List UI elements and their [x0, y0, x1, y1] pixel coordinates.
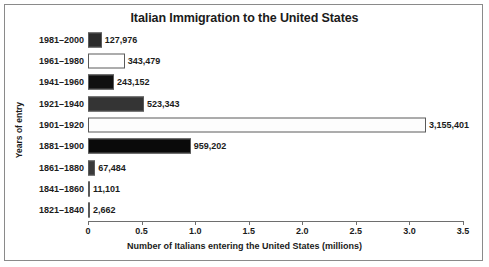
bar-value-label: 11,101	[93, 184, 120, 194]
bar-row: 1881–1900959,202	[88, 136, 463, 157]
bar	[88, 96, 144, 111]
x-tick-label: 2.0	[282, 226, 322, 236]
category-label: 1961–1980	[39, 56, 84, 66]
bar-value-label: 959,202	[194, 141, 227, 151]
x-axis-line	[88, 221, 464, 222]
category-label: 1921–1940	[39, 99, 84, 109]
x-tick	[249, 221, 250, 225]
bar-value-label: 343,479	[128, 56, 161, 66]
bar	[88, 203, 90, 218]
bar	[88, 53, 125, 68]
y-axis-label: Years of entry	[14, 80, 24, 180]
x-tick	[88, 221, 89, 225]
category-label: 1861–1880	[39, 163, 84, 173]
x-axis-label: Number of Italians entering the United S…	[5, 241, 484, 251]
bar	[88, 181, 90, 196]
bar-row: 1981–2000127,976	[88, 29, 463, 50]
x-tick	[142, 221, 143, 225]
bar-value-label: 523,343	[147, 99, 180, 109]
x-tick-label: 0	[68, 226, 108, 236]
x-tick	[302, 221, 303, 225]
bar	[88, 139, 191, 154]
bar-value-label: 3,155,401	[429, 120, 469, 130]
category-label: 1821–1840	[39, 205, 84, 215]
bar	[88, 75, 114, 90]
bar-row: 1921–1940523,343	[88, 93, 463, 114]
bar-row: 1941–1960243,152	[88, 72, 463, 93]
x-tick	[356, 221, 357, 225]
bar	[88, 117, 426, 132]
x-tick-label: 0.5	[122, 226, 162, 236]
category-label: 1901–1920	[39, 120, 84, 130]
bar	[88, 32, 102, 47]
x-tick-label: 1.0	[175, 226, 215, 236]
bar-row: 1961–1980343,479	[88, 50, 463, 71]
bar	[88, 160, 95, 175]
bar-value-label: 2,662	[93, 205, 116, 215]
chart-title: Italian Immigration to the United States	[5, 11, 484, 25]
chart-figure: Italian Immigration to the United States…	[4, 4, 483, 261]
x-tick-label: 3.0	[389, 226, 429, 236]
x-tick-label: 2.5	[336, 226, 376, 236]
bar-row: 1841–186011,101	[88, 178, 463, 199]
category-label: 1981–2000	[39, 35, 84, 45]
x-tick	[409, 221, 410, 225]
plot-area: 1981–2000127,9761961–1980343,4791941–196…	[88, 29, 463, 221]
category-label: 1841–1860	[39, 184, 84, 194]
x-tick-label: 3.5	[443, 226, 483, 236]
category-label: 1881–1900	[39, 141, 84, 151]
bar-row: 1821–18402,662	[88, 200, 463, 221]
category-label: 1941–1960	[39, 77, 84, 87]
bar-row: 1901–19203,155,401	[88, 114, 463, 135]
x-tick-label: 1.5	[229, 226, 269, 236]
bar-row: 1861–188067,484	[88, 157, 463, 178]
x-tick	[463, 221, 464, 225]
bar-value-label: 243,152	[117, 77, 150, 87]
bar-value-label: 127,976	[105, 35, 138, 45]
bar-value-label: 67,484	[98, 163, 126, 173]
x-tick	[195, 221, 196, 225]
